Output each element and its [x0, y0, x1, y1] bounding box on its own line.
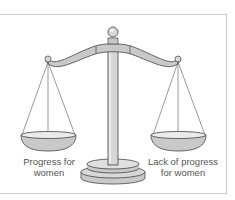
left-pan	[21, 62, 76, 151]
right-pan-label-line1: Lack of progress	[143, 156, 223, 167]
right-pan-label: Lack of progress for women	[143, 156, 223, 178]
right-pan-label-line2: for women	[143, 167, 223, 178]
left-pan-label: Progress for women	[18, 156, 80, 178]
left-pan-label-line1: Progress for	[18, 156, 80, 167]
scale-finial	[108, 27, 118, 44]
left-pan-label-line2: women	[18, 167, 80, 178]
right-pan	[151, 62, 206, 151]
